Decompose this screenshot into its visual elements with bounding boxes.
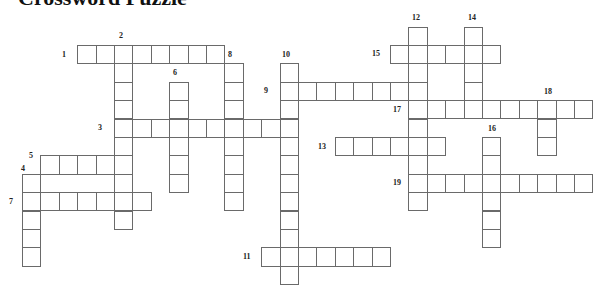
crossword-cell[interactable] (151, 119, 170, 138)
crossword-cell[interactable] (408, 155, 427, 174)
crossword-cell[interactable] (224, 100, 243, 119)
crossword-cell[interactable] (132, 45, 151, 64)
crossword-cell[interactable] (280, 100, 299, 119)
crossword-cell[interactable] (22, 247, 41, 266)
crossword-cell[interactable] (114, 211, 133, 230)
crossword-cell[interactable] (261, 247, 280, 266)
crossword-cell[interactable] (114, 137, 133, 156)
crossword-cell[interactable] (224, 119, 243, 138)
crossword-cell[interactable] (445, 45, 464, 64)
crossword-cell[interactable] (408, 137, 427, 156)
crossword-cell[interactable] (537, 119, 556, 138)
crossword-cell[interactable] (408, 63, 427, 82)
crossword-cell[interactable] (132, 119, 151, 138)
crossword-cell[interactable] (40, 155, 59, 174)
crossword-cell[interactable] (482, 137, 501, 156)
crossword-cell[interactable] (280, 137, 299, 156)
crossword-cell[interactable] (114, 192, 133, 211)
crossword-cell[interactable] (445, 174, 464, 193)
crossword-cell[interactable] (22, 229, 41, 248)
crossword-cell[interactable] (427, 174, 446, 193)
crossword-cell[interactable] (408, 82, 427, 101)
crossword-cell[interactable] (188, 45, 207, 64)
crossword-cell[interactable] (22, 211, 41, 230)
crossword-cell[interactable] (372, 82, 391, 101)
crossword-cell[interactable] (280, 192, 299, 211)
crossword-cell[interactable] (280, 211, 299, 230)
crossword-cell[interactable] (114, 155, 133, 174)
crossword-cell[interactable] (280, 155, 299, 174)
crossword-cell[interactable] (574, 100, 593, 119)
crossword-cell[interactable] (464, 82, 483, 101)
crossword-cell[interactable] (316, 247, 335, 266)
crossword-cell[interactable] (114, 45, 133, 64)
crossword-cell[interactable] (408, 45, 427, 64)
crossword-cell[interactable] (372, 247, 391, 266)
crossword-cell[interactable] (114, 82, 133, 101)
crossword-cell[interactable] (519, 100, 538, 119)
crossword-cell[interactable] (22, 192, 41, 211)
crossword-cell[interactable] (243, 119, 262, 138)
crossword-cell[interactable] (261, 119, 280, 138)
crossword-cell[interactable] (22, 174, 41, 193)
crossword-cell[interactable] (59, 192, 78, 211)
crossword-cell[interactable] (169, 155, 188, 174)
crossword-cell[interactable] (169, 137, 188, 156)
crossword-cell[interactable] (482, 155, 501, 174)
crossword-cell[interactable] (408, 192, 427, 211)
crossword-cell[interactable] (408, 27, 427, 46)
crossword-cell[interactable] (519, 174, 538, 193)
crossword-cell[interactable] (224, 63, 243, 82)
crossword-cell[interactable] (114, 100, 133, 119)
crossword-cell[interactable] (482, 100, 501, 119)
crossword-cell[interactable] (408, 100, 427, 119)
crossword-cell[interactable] (537, 174, 556, 193)
crossword-cell[interactable] (132, 192, 151, 211)
crossword-cell[interactable] (169, 119, 188, 138)
crossword-cell[interactable] (77, 45, 96, 64)
crossword-cell[interactable] (280, 266, 299, 285)
crossword-cell[interactable] (280, 119, 299, 138)
crossword-cell[interactable] (280, 63, 299, 82)
crossword-cell[interactable] (427, 45, 446, 64)
crossword-cell[interactable] (224, 192, 243, 211)
crossword-cell[interactable] (280, 174, 299, 193)
crossword-cell[interactable] (574, 174, 593, 193)
crossword-cell[interactable] (298, 247, 317, 266)
crossword-cell[interactable] (353, 247, 372, 266)
crossword-cell[interactable] (482, 229, 501, 248)
crossword-cell[interactable] (114, 174, 133, 193)
crossword-cell[interactable] (500, 100, 519, 119)
crossword-cell[interactable] (372, 137, 391, 156)
crossword-cell[interactable] (482, 192, 501, 211)
crossword-cell[interactable] (169, 82, 188, 101)
crossword-cell[interactable] (335, 247, 354, 266)
crossword-cell[interactable] (464, 63, 483, 82)
crossword-cell[interactable] (464, 100, 483, 119)
crossword-cell[interactable] (556, 100, 575, 119)
crossword-cell[interactable] (335, 137, 354, 156)
crossword-cell[interactable] (427, 100, 446, 119)
crossword-cell[interactable] (224, 137, 243, 156)
crossword-cell[interactable] (464, 45, 483, 64)
crossword-cell[interactable] (206, 45, 225, 64)
crossword-cell[interactable] (77, 155, 96, 174)
crossword-cell[interactable] (445, 100, 464, 119)
crossword-cell[interactable] (77, 192, 96, 211)
crossword-cell[interactable] (482, 211, 501, 230)
crossword-cell[interactable] (206, 119, 225, 138)
crossword-cell[interactable] (114, 119, 133, 138)
crossword-cell[interactable] (114, 63, 133, 82)
crossword-cell[interactable] (169, 45, 188, 64)
crossword-cell[interactable] (96, 192, 115, 211)
crossword-cell[interactable] (482, 174, 501, 193)
crossword-cell[interactable] (353, 137, 372, 156)
crossword-cell[interactable] (59, 155, 78, 174)
crossword-cell[interactable] (224, 174, 243, 193)
crossword-cell[interactable] (427, 137, 446, 156)
crossword-cell[interactable] (224, 82, 243, 101)
crossword-cell[interactable] (96, 45, 115, 64)
crossword-cell[interactable] (335, 82, 354, 101)
crossword-cell[interactable] (316, 82, 335, 101)
crossword-cell[interactable] (169, 100, 188, 119)
